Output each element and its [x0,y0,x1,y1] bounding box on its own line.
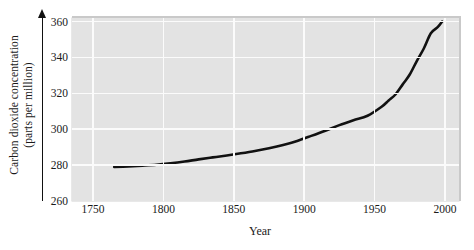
gridline-vertical [92,18,94,201]
x-tick-label: 2000 [433,203,456,216]
data-series-line [72,18,459,201]
y-axis-title-line1: Carbon dioxide concentration [7,35,21,174]
x-tick-label: 1750 [82,203,105,216]
gridline-vertical [303,18,305,201]
x-tick-label: 1800 [152,203,175,216]
gridline-horizontal [72,93,459,95]
x-axis-title: Year [0,224,474,239]
x-tick-label: 1950 [363,203,386,216]
y-tick-label: 300 [44,123,68,135]
gridline-horizontal [72,128,459,130]
gridline-vertical [233,18,235,201]
gridline-vertical [374,18,376,201]
plot-area [72,18,459,201]
y-axis-title: Carbon dioxide concentration (parts per … [0,0,42,210]
x-tick-label: 1900 [293,203,316,216]
chart-figure: Carbon dioxide concentration (parts per … [0,0,474,250]
y-tick-label: 320 [44,87,68,99]
y-axis-title-line2: (parts per million) [21,35,35,174]
y-tick-label: 260 [44,195,68,207]
gridline-vertical [444,18,446,201]
gridline-horizontal [72,21,459,23]
x-tick-label: 1850 [222,203,245,216]
x-axis-title-label: Year [203,224,271,238]
plot-inner [72,18,459,201]
gridline-horizontal [72,57,459,59]
y-axis-tick-labels: 260280300320340360 [44,0,68,250]
y-tick-label: 360 [44,16,68,28]
gridline-horizontal [72,164,459,166]
gridline-vertical [163,18,165,201]
y-tick-label: 340 [44,51,68,63]
plot-right-edge [459,16,461,201]
y-tick-label: 280 [44,159,68,171]
